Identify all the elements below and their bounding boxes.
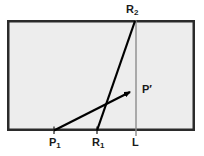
label-p-prime-mark: ′: [149, 83, 152, 95]
label-r2-text: R: [126, 3, 134, 15]
diagram-canvas: R2 P′ P1 R1 L: [0, 0, 204, 156]
label-l: L: [132, 137, 139, 148]
label-p1: P1: [49, 137, 61, 148]
label-p1-subscript: 1: [56, 141, 60, 150]
label-r1-text: R: [92, 136, 100, 148]
label-l-text: L: [132, 136, 139, 148]
label-r2: R2: [126, 4, 138, 15]
label-r1-subscript: 1: [100, 141, 104, 150]
label-p-prime: P′: [142, 84, 152, 95]
diagram-figure: [0, 0, 204, 156]
label-r1: R1: [92, 137, 104, 148]
shaded-rectangle-region: [8, 21, 194, 130]
label-r2-subscript: 2: [134, 8, 138, 17]
